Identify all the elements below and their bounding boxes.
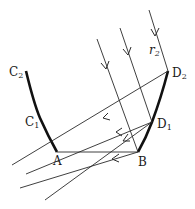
label-c2: C2 — [9, 66, 23, 80]
reflected-ray-b — [20, 152, 138, 188]
label-b: B — [138, 156, 147, 168]
arrow-icon — [116, 128, 122, 136]
arrow-icon — [103, 113, 110, 120]
right-reflector-curve — [138, 71, 168, 152]
label-d2: D2 — [172, 67, 187, 81]
reflector-diagram: C2 C1 A B D1 D2 r2 — [0, 0, 195, 209]
label-d1: D1 — [157, 118, 172, 132]
label-r2: r2 — [149, 44, 160, 58]
incoming-ray-3 — [149, 10, 168, 71]
left-reflector-curve — [26, 71, 57, 152]
label-a: A — [53, 155, 62, 167]
diagram-canvas — [0, 0, 195, 209]
incoming-ray-1 — [97, 39, 138, 152]
incoming-ray-2 — [120, 28, 152, 122]
arrow-icon — [123, 134, 130, 141]
label-c1: C1 — [25, 116, 39, 130]
